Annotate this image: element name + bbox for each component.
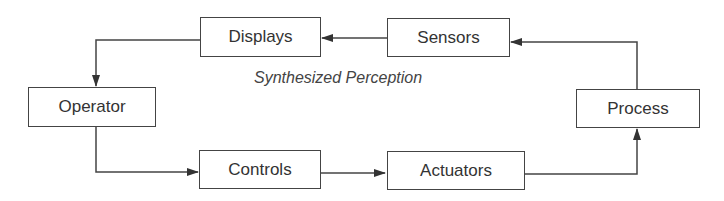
node-actuators: Actuators [387, 151, 525, 190]
diagram-caption: Synthesized Perception [254, 69, 422, 87]
node-operator: Operator [28, 87, 156, 127]
node-label: Actuators [420, 161, 492, 181]
node-sensors: Sensors [387, 18, 510, 57]
edge-operator-controls [96, 126, 198, 172]
node-label: Process [607, 99, 668, 119]
node-label: Sensors [417, 28, 479, 48]
node-process: Process [576, 89, 700, 128]
node-controls: Controls [199, 150, 321, 189]
edge-displays-operator [96, 40, 200, 86]
edge-process-sensors [511, 42, 637, 89]
node-label: Displays [228, 27, 292, 47]
node-label: Controls [228, 160, 291, 180]
node-label: Operator [58, 97, 125, 117]
edge-actuators-process [524, 129, 637, 174]
node-displays: Displays [200, 17, 321, 57]
